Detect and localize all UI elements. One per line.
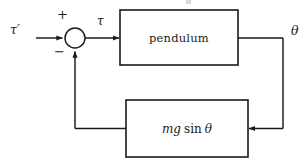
summing-junction-circle	[65, 28, 85, 48]
feedback-term-m: m	[162, 122, 173, 136]
output-signal-label: θ	[291, 25, 299, 38]
block-diagram-canvas: τ′ τ θ + − pendulum mgsinθ	[0, 0, 308, 168]
input-signal-label: τ′	[10, 24, 20, 37]
summing-minus-sign: −	[54, 45, 65, 58]
feedback-term-theta: θ	[203, 122, 212, 136]
feedback-term-sin: sin	[181, 122, 203, 136]
summed-signal-label: τ	[97, 15, 104, 27]
feedback-block-label: mgsinθ	[126, 100, 248, 157]
summing-plus-sign: +	[57, 8, 68, 21]
feedback-term-g: g	[173, 122, 181, 136]
pendulum-block-label: pendulum	[120, 10, 238, 65]
